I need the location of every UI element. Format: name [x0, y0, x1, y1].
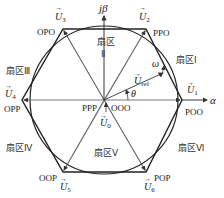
svg-text:U5: U5 — [60, 181, 71, 194]
zero-vector-label: U0 → — [100, 112, 111, 130]
vector-u4-label: → U4 — [5, 82, 16, 101]
state-pop: POP — [154, 173, 171, 183]
vector-u3-label: → U3 — [55, 4, 66, 24]
vector-u1-label: → U1 — [187, 79, 198, 97]
state-opo: OPO — [37, 27, 56, 37]
sector-2-label-bottom: Ⅱ — [101, 49, 105, 59]
sector-5-label: 扇区Ⅴ — [94, 147, 119, 158]
omega-arc — [161, 66, 164, 77]
svg-text:→: → — [100, 112, 107, 120]
sector-2-label-top: 扇区 — [97, 36, 115, 47]
sector-3-label: 扇区Ⅲ — [6, 65, 30, 76]
sector-6-label: 扇区Ⅵ — [178, 142, 204, 153]
state-poo: POO — [185, 107, 204, 117]
svg-text:U1: U1 — [187, 84, 198, 97]
beta-axis-label: jβ — [97, 2, 108, 14]
state-opp: OPP — [4, 104, 21, 114]
svg-text:U4: U4 — [5, 88, 16, 101]
theta-label: θ — [131, 88, 136, 99]
theta-arc — [126, 90, 128, 100]
state-ppo: PPO — [153, 28, 170, 38]
state-oop: OOP — [39, 173, 57, 183]
omega-label: ω — [152, 58, 159, 69]
center-state-ppp: PPP — [82, 103, 97, 113]
reference-vector-label: Uref → — [134, 70, 150, 88]
svg-text:U3: U3 — [55, 11, 66, 24]
vector-u2-label: → U2 — [139, 4, 150, 24]
alpha-axis-label: α — [210, 94, 216, 106]
svg-text:→: → — [134, 70, 141, 78]
space-vector-diagram: α jβ θ ω Uref → U0 → PPP OOO → U1 POO → … — [0, 0, 224, 198]
sector-4-label: 扇区Ⅳ — [6, 142, 33, 153]
sector-1-label: 扇区Ⅰ — [176, 54, 197, 65]
svg-text:U2: U2 — [139, 11, 150, 24]
center-state-ooo: OOO — [111, 103, 131, 113]
vector-u5-label: → U5 — [60, 175, 71, 194]
